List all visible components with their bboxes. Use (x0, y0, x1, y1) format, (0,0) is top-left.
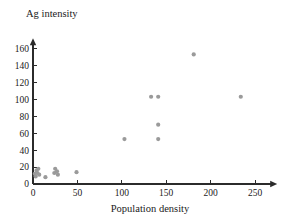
x-tick-label: 250 (248, 188, 263, 198)
axes (30, 38, 277, 187)
scatter-chart: 050100150200250 020406080100120140160 Po… (0, 0, 303, 220)
data-point (156, 137, 160, 141)
x-axis-ticks: 050100150200250 (31, 180, 263, 198)
y-tick-label: 120 (15, 78, 30, 88)
data-point (36, 167, 40, 171)
y-tick-label: 100 (15, 95, 30, 105)
y-tick-label: 160 (15, 44, 30, 54)
data-point (74, 170, 78, 174)
x-axis-title: Population density (111, 203, 190, 214)
y-axis-title: Ag intensity (26, 8, 78, 19)
data-point (43, 175, 47, 179)
x-tick-label: 100 (115, 188, 130, 198)
chart-canvas: 050100150200250 020406080100120140160 Po… (0, 0, 303, 220)
x-tick-label: 0 (31, 188, 36, 198)
data-point (37, 173, 41, 177)
data-points (33, 52, 243, 179)
data-point (56, 173, 60, 177)
x-tick-label: 150 (159, 188, 174, 198)
data-point (192, 52, 196, 56)
data-point (156, 123, 160, 127)
data-point (149, 95, 153, 99)
x-tick-label: 200 (203, 188, 218, 198)
y-tick-label: 80 (20, 112, 30, 122)
y-tick-label: 0 (24, 179, 29, 189)
y-tick-label: 60 (20, 129, 30, 139)
y-axis-ticks: 020406080100120140160 (15, 44, 37, 190)
data-point (122, 137, 126, 141)
x-tick-label: 50 (73, 188, 83, 198)
data-point (239, 95, 243, 99)
y-tick-label: 20 (20, 162, 30, 172)
data-point (156, 95, 160, 99)
y-tick-label: 40 (20, 146, 30, 156)
y-tick-label: 140 (15, 61, 30, 71)
